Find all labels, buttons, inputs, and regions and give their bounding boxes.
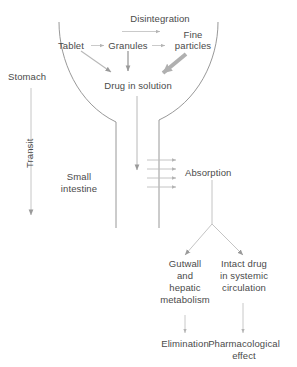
label-gutwall-line1: Gutwall <box>169 258 201 270</box>
label-absorption: Absorption <box>185 167 231 179</box>
label-granules: Granules <box>108 40 147 52</box>
label-tablet: Tablet <box>58 40 84 52</box>
tablet-to-solution-arrow <box>81 51 111 72</box>
label-intact-drug-line2: in systemic <box>220 270 268 282</box>
label-gutwall-line2: and <box>177 270 193 282</box>
label-disintegration: Disintegration <box>130 13 190 25</box>
label-small-intestine-line2: intestine <box>61 183 97 195</box>
label-fine-particles-line2: particles <box>175 40 211 52</box>
label-transit: Transit <box>24 139 36 168</box>
label-stomach: Stomach <box>8 71 46 83</box>
absorption-pathway-diagram <box>0 0 297 367</box>
label-elimination: Elimination <box>161 338 209 350</box>
label-pharmacological-line2: effect <box>232 350 256 362</box>
fork-to-intact-drug-arrow <box>212 224 243 255</box>
label-intact-drug-line3: circulation <box>222 282 266 294</box>
label-small-intestine-line1: Small <box>67 171 91 183</box>
label-pharmacological-line1: Pharmacological <box>208 338 280 350</box>
absorption-arrows <box>147 160 176 187</box>
fork-to-gutwall-arrow <box>185 224 212 255</box>
stomach-wall-left <box>59 22 116 122</box>
label-drug-in-solution: Drug in solution <box>104 80 172 92</box>
label-fine-particles-line1: Fine <box>184 29 203 41</box>
label-gutwall-line3: hepatic <box>169 282 200 294</box>
fine-particles-to-solution-arrow <box>163 54 186 73</box>
label-gutwall-line4: metabolism <box>160 294 210 306</box>
label-intact-drug-line1: Intact drug <box>221 258 267 270</box>
